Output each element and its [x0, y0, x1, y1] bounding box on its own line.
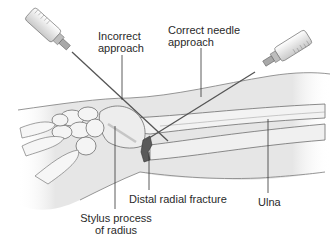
label-incorrect-line1: Incorrect: [98, 30, 144, 42]
label-correct-line2: approach: [168, 36, 240, 48]
label-incorrect-approach: Incorrect approach: [98, 30, 144, 54]
label-stylus-line1: Stylus process: [72, 212, 160, 224]
label-distal-radial-fracture: Distal radial fracture: [129, 193, 227, 205]
label-fracture-text: Distal radial fracture: [129, 193, 227, 205]
label-ulna-text: Ulna: [258, 196, 281, 208]
label-incorrect-line2: approach: [98, 42, 144, 54]
label-stylus-line2: of radius: [72, 224, 160, 236]
label-ulna: Ulna: [258, 196, 281, 208]
label-stylus-process: Stylus process of radius: [72, 212, 160, 236]
label-correct-line1: Correct needle: [168, 24, 240, 36]
label-correct-approach: Correct needle approach: [168, 24, 240, 48]
